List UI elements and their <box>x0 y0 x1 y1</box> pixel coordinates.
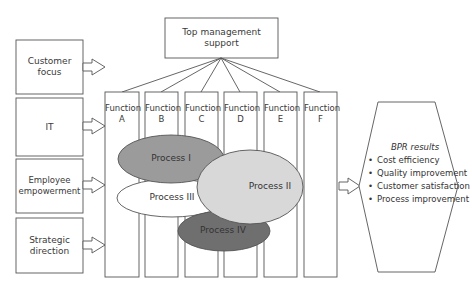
function-letter: E <box>264 114 297 125</box>
enabler-label-it: IT <box>22 98 77 156</box>
list-item: Customer satisfaction <box>368 180 458 193</box>
process-iii-label: Process III <box>132 192 212 202</box>
list-item: Quality improvement <box>368 167 458 180</box>
function-label-text: Function <box>105 103 139 114</box>
enabler-label-strategic-direction: Strategic direction <box>26 218 73 273</box>
function-letter: B <box>145 114 178 125</box>
list-item: Cost efficiency <box>368 154 458 167</box>
connector-lines <box>122 58 320 92</box>
results-arrow-icon <box>339 178 360 194</box>
top-management-label: Top management support <box>165 18 278 58</box>
enabler-label-customer-focus: Customer focus <box>22 40 77 94</box>
process-iv-label: Process IV <box>183 225 263 235</box>
function-label-a: Function A <box>105 103 139 125</box>
bpr-results: BPR results Cost efficiency Quality impr… <box>368 141 458 206</box>
arrow-icon <box>83 118 105 134</box>
function-label-c: Function C <box>185 103 218 125</box>
function-label-f: Function F <box>304 103 337 125</box>
list-item: Process improvement <box>368 193 458 206</box>
function-label-text: Function <box>224 103 257 114</box>
arrow-icon <box>83 59 105 75</box>
process-ii-label: Process II <box>230 181 310 191</box>
process-i-label: Process I <box>131 153 211 163</box>
function-label-text: Function <box>185 103 218 114</box>
enabler-label-employee-empowerment: Employee empowerment <box>16 159 83 213</box>
function-label-e: Function E <box>264 103 297 125</box>
arrow-icon <box>83 177 105 193</box>
function-letter: A <box>105 114 139 125</box>
function-label-b: Function B <box>145 103 178 125</box>
arrow-icon <box>83 237 105 253</box>
function-label-text: Function <box>145 103 178 114</box>
bpr-results-title: BPR results <box>368 141 458 154</box>
function-letter: C <box>185 114 218 125</box>
function-label-text: Function <box>304 103 337 114</box>
function-letter: D <box>224 114 257 125</box>
function-label-d: Function D <box>224 103 257 125</box>
function-letter: F <box>304 114 337 125</box>
function-label-text: Function <box>264 103 297 114</box>
bpr-results-list: Cost efficiency Quality improvement Cust… <box>368 154 458 206</box>
enabler-arrows <box>83 59 105 253</box>
